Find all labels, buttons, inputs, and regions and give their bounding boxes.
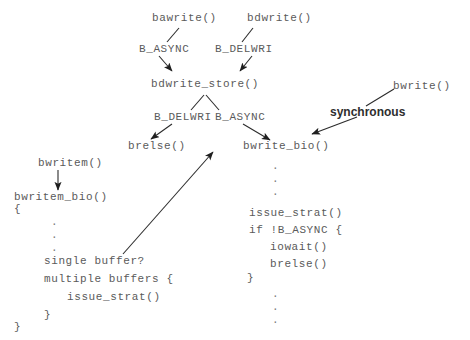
label-synchronous: synchronous <box>330 105 405 119</box>
bwritem-bio-dots-top: . . . <box>51 216 58 255</box>
edge-bwrite-to-synchronous <box>366 89 394 106</box>
bwritem-bio-open-brace: { <box>14 203 21 216</box>
node-bdwrite: bdwrite() <box>247 12 312 25</box>
bwritem-bio-line-single-buffer: single buffer? <box>44 255 145 268</box>
edge-bdwrite-store-to-b-delwri <box>191 95 204 110</box>
node-brelse: brelse() <box>128 140 186 153</box>
bwrite-bio-dots-top: . . . <box>272 160 279 199</box>
diagram-canvas: bawrite() bdwrite() B_ASYNC B_DELWRI bdw… <box>0 0 470 340</box>
bwritem-bio-close-brace-outer: } <box>14 321 21 334</box>
flag-b-delwri-top: B_DELWRI <box>215 43 273 56</box>
node-bdwrite-store: bdwrite_store() <box>151 78 259 91</box>
node-bawrite: bawrite() <box>152 12 217 25</box>
flag-b-delwri-mid: B_DELWRI <box>154 111 212 124</box>
flag-b-async-mid: B_ASYNC <box>215 111 265 124</box>
bwritem-bio-line-issue-strat: issue_strat() <box>67 291 161 304</box>
node-bwritem: bwritem() <box>38 157 103 170</box>
node-bwrite-bio: bwrite_bio() <box>243 140 329 153</box>
edge-bdwrite-store-to-b-async <box>206 95 219 110</box>
edge-synchronous-to-bwrite-bio <box>312 117 357 134</box>
node-bwrite: bwrite() <box>393 80 451 93</box>
edge-bdwrite-to-b-delwri <box>242 28 253 42</box>
bwritem-bio-close-brace-inner: } <box>44 309 51 322</box>
edge-b-delwri-to-bdwrite-store <box>240 56 252 71</box>
edge-b-async-to-bwrite-bio <box>243 124 270 140</box>
bwrite-bio-line-if-async: if !B_ASYNC { <box>249 224 343 237</box>
edge-bawrite-to-b-async <box>167 28 179 42</box>
edge-b-delwri-to-brelse <box>151 124 172 139</box>
bwrite-bio-dots-bottom: . . . <box>272 288 279 327</box>
edge-single-buffer-to-bwrite-bio <box>123 152 213 254</box>
bwrite-bio-line-brelse: brelse() <box>270 258 328 271</box>
flag-b-async-top: B_ASYNC <box>139 43 189 56</box>
bwrite-bio-line-issue-strat: issue_strat() <box>249 207 343 220</box>
bwrite-bio-line-iowait: iowait() <box>270 241 328 254</box>
node-bwritem-bio: bwritem_bio() <box>14 191 108 204</box>
bwrite-bio-close-brace: } <box>247 272 254 285</box>
edge-b-async-to-bdwrite-store <box>159 56 172 71</box>
bwritem-bio-line-multiple-buffers: multiple buffers { <box>44 273 174 286</box>
